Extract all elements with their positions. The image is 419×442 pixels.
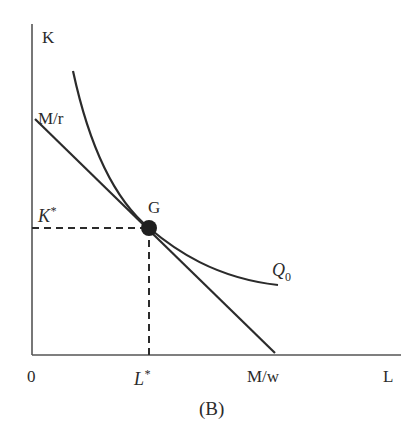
- origin-label: 0: [27, 367, 36, 386]
- y-axis-label: K: [42, 28, 55, 47]
- isocost-line: [35, 119, 275, 353]
- x-axis-label: L: [383, 367, 393, 386]
- budget-y-intercept-label: M/r: [38, 109, 64, 128]
- isoquant-curve: [73, 71, 278, 285]
- isoquant-label: Q0: [272, 260, 291, 284]
- diagram-svg: K M/r G K* Q0 0 L* M/w L (B): [0, 0, 419, 442]
- l-star-label: L*: [133, 367, 150, 389]
- figure-caption: (B): [199, 398, 224, 420]
- equilibrium-point: [141, 220, 157, 236]
- k-star-label: K*: [37, 204, 56, 226]
- budget-x-intercept-label: M/w: [247, 367, 280, 386]
- point-g-label: G: [148, 198, 160, 217]
- isoquant-isocost-diagram: K M/r G K* Q0 0 L* M/w L (B): [0, 0, 419, 442]
